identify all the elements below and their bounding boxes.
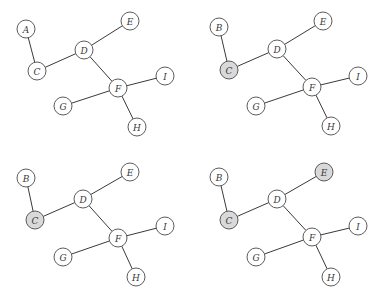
edge-d-e — [285, 176, 316, 194]
node-d: D — [268, 40, 286, 58]
edge-f-h — [316, 245, 327, 269]
node-c: C — [220, 61, 238, 79]
edge-d-f — [89, 206, 112, 232]
node-d: D — [74, 190, 92, 208]
edge-a-c — [28, 38, 34, 63]
edge-d-e — [91, 176, 122, 194]
node-label: C — [226, 216, 233, 226]
node-b: B — [17, 169, 35, 187]
edge-f-g — [72, 241, 110, 254]
edge-c-d — [237, 53, 269, 67]
node-label: C — [32, 216, 39, 226]
node-label: C — [226, 66, 233, 76]
edge-f-g — [264, 240, 303, 254]
edge-d-e — [92, 26, 123, 45]
node-f: F — [303, 78, 321, 96]
node-b: B — [210, 18, 228, 36]
node-h: H — [127, 268, 145, 286]
node-g: G — [54, 248, 72, 266]
node-e: E — [314, 12, 332, 30]
node-label: H — [132, 123, 141, 133]
node-label: H — [326, 273, 335, 283]
node-c: C — [26, 211, 44, 229]
node-f: F — [109, 229, 127, 247]
edge-d-f — [90, 57, 112, 82]
node-h: H — [322, 268, 340, 286]
node-label: B — [215, 173, 223, 183]
node-i: I — [156, 67, 174, 85]
node-label: F — [308, 83, 316, 93]
node-g: G — [247, 97, 265, 115]
node-i: I — [156, 217, 174, 235]
node-label: G — [252, 253, 259, 263]
edge-f-h — [122, 96, 133, 119]
node-label: H — [326, 122, 335, 132]
node-e: E — [315, 163, 333, 181]
node-label: I — [162, 222, 167, 232]
edge-b-c — [221, 186, 227, 211]
edge-f-i — [321, 78, 349, 85]
panel-top-right: BCDEFGHI — [210, 12, 367, 135]
node-label: I — [162, 72, 167, 82]
node-label: C — [34, 67, 41, 77]
edge-b-c — [28, 187, 33, 211]
node-label: D — [272, 195, 280, 205]
node-label: E — [126, 168, 134, 178]
node-b: B — [210, 168, 228, 186]
edge-b-c — [221, 36, 227, 61]
edge-c-d — [43, 203, 75, 217]
edge-f-g — [72, 91, 110, 103]
node-label: I — [355, 222, 360, 232]
node-label: D — [78, 195, 86, 205]
node-label: E — [319, 17, 327, 27]
node-label: D — [272, 45, 280, 55]
panel-bottom-left: BCDEFGHI — [17, 163, 174, 286]
edge-f-i — [321, 228, 349, 235]
edge-c-d — [45, 54, 76, 68]
node-c: C — [28, 62, 46, 80]
node-label: F — [114, 84, 122, 94]
panel-top-left: ACDEFGHI — [17, 12, 174, 136]
node-label: E — [320, 168, 328, 178]
node-f: F — [303, 228, 321, 246]
edge-f-h — [316, 95, 327, 118]
edge-f-i — [127, 228, 157, 236]
node-h: H — [322, 117, 340, 135]
node-label: G — [252, 102, 259, 112]
node-label: F — [114, 234, 122, 244]
node-g: G — [54, 97, 72, 115]
node-d: D — [268, 190, 286, 208]
edge-d-e — [285, 26, 316, 45]
edge-f-h — [122, 246, 132, 269]
node-e: E — [121, 163, 139, 181]
node-label: D — [79, 46, 87, 56]
node-label: B — [22, 174, 30, 184]
node-label: F — [308, 233, 316, 243]
node-d: D — [75, 41, 93, 59]
panel-bottom-right: BCDEFGHI — [210, 163, 367, 286]
node-e: E — [121, 12, 139, 30]
node-h: H — [128, 118, 146, 136]
graph-diagram: ACDEFGHIBCDEFGHIBCDEFGHIBCDEFGHI — [0, 0, 381, 297]
node-label: H — [131, 273, 140, 283]
node-g: G — [247, 248, 265, 266]
edge-f-i — [127, 78, 157, 86]
node-i: I — [349, 217, 367, 235]
node-label: G — [59, 253, 66, 263]
node-c: C — [220, 211, 238, 229]
node-a: A — [17, 20, 35, 38]
edge-d-f — [283, 56, 306, 81]
node-label: G — [59, 102, 66, 112]
node-label: B — [215, 23, 223, 33]
edge-d-f — [283, 206, 306, 231]
node-label: A — [22, 25, 30, 35]
node-label: I — [355, 72, 360, 82]
edge-f-g — [265, 90, 304, 103]
node-f: F — [109, 79, 127, 97]
node-label: E — [126, 17, 134, 27]
node-i: I — [349, 67, 367, 85]
edge-c-d — [237, 203, 269, 217]
